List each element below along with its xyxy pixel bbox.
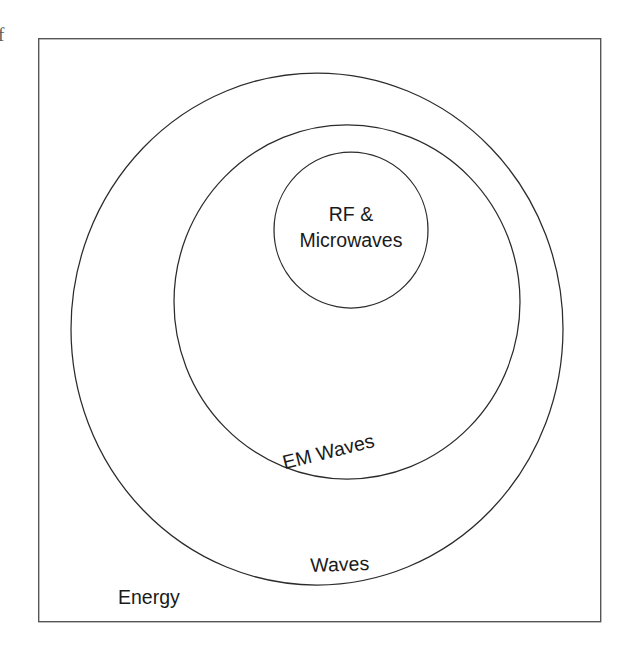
figure-page: f RF & Microwaves EM Waves Waves Energy [0, 0, 638, 648]
energy-label: Energy [118, 586, 180, 608]
rf-microwaves-label-line1: RF & [329, 203, 373, 225]
energy-boundary-rect [39, 39, 601, 622]
rf-microwaves-label-line2: Microwaves [300, 229, 403, 251]
nested-set-diagram: RF & Microwaves EM Waves Waves Energy [0, 0, 638, 648]
waves-label: Waves [310, 552, 370, 576]
